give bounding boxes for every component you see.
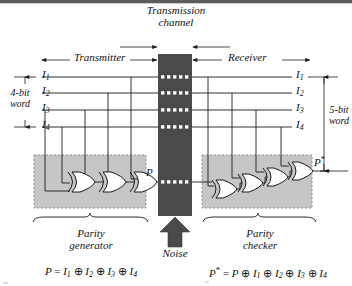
- transmission-channel-label: Transmission channel: [126, 5, 226, 29]
- parity-generator-line1: Parity: [77, 227, 105, 239]
- word-label-right: 5-bit word: [326, 105, 352, 127]
- noise-label: Noise: [148, 248, 202, 260]
- signal-label-right-i1: I1: [296, 69, 304, 82]
- parity-checker-line1: Parity: [246, 227, 274, 239]
- equation-parity-generator: P = I1 ⊕ I2 ⊕ I3 ⊕ I4: [24, 266, 158, 279]
- chk-eq-p: P: [232, 267, 239, 279]
- parity-check-out-prime: *: [321, 154, 325, 164]
- receiver-data-lines: [192, 77, 292, 127]
- chk-eq-xor3: ⊕: [308, 267, 317, 279]
- gen-eq-i4-sub: 4: [133, 270, 137, 279]
- noise-arrow-icon: [160, 217, 190, 247]
- chk-eq-lhs: P: [209, 267, 216, 279]
- parity-checker-line2: checker: [243, 239, 277, 251]
- signal-label-left-i2: I2: [42, 85, 50, 98]
- gen-eq-equals: =: [54, 265, 60, 277]
- chk-eq-i1-sub: 1: [257, 271, 261, 280]
- chk-eq-equals: =: [223, 267, 229, 279]
- word-right-line1: 5-bit: [330, 104, 349, 115]
- brace-parity-checker: [203, 213, 316, 222]
- signal-label-left-i3: I3: [42, 102, 50, 115]
- transmitter-data-lines: [42, 77, 158, 127]
- signal-label-right-i4: I4: [296, 119, 304, 132]
- parity-checker-caption: Parity checker: [210, 228, 310, 252]
- chk-eq-i3-sub: 3: [301, 271, 305, 280]
- gen-eq-xor1: ⊕: [74, 265, 83, 277]
- signal-left-i2-sub: 2: [46, 89, 50, 98]
- chk-eq-i2-sub: 2: [279, 271, 283, 280]
- gen-eq-i3-sub: 3: [111, 270, 115, 279]
- parity-check-out-label: P*: [314, 155, 325, 168]
- chk-eq-i4-sub: 4: [323, 271, 327, 280]
- generator-xor-gates: [68, 172, 158, 192]
- word-left-line1: 4-bit: [11, 87, 30, 98]
- signal-label-right-i3: I3: [296, 102, 304, 115]
- receiver-label: Receiver: [228, 52, 266, 64]
- signal-right-i3-sub: 3: [300, 106, 304, 115]
- brace-parity-generator: [33, 213, 148, 222]
- signal-left-i3-sub: 3: [46, 106, 50, 115]
- gen-eq-i2-sub: 2: [89, 270, 93, 279]
- word-label-left: 4-bit word: [0, 88, 40, 110]
- gen-eq-xor3: ⊕: [118, 265, 127, 277]
- transmission-channel-line1: Transmission: [147, 4, 206, 16]
- signal-label-left-i1: I1: [42, 69, 50, 82]
- chk-eq-xor2: ⊕: [285, 267, 294, 279]
- signal-right-i2-sub: 2: [300, 89, 304, 98]
- gen-eq-lhs: P: [45, 265, 52, 277]
- parity-generator-caption: Parity generator: [40, 228, 142, 252]
- scan-speckle-1: [3, 282, 8, 284]
- signal-left-i1-sub: 1: [46, 73, 50, 82]
- figure-root: Transmission channel Transmitter Receive…: [0, 0, 352, 286]
- gen-eq-xor2: ⊕: [96, 265, 105, 277]
- parity-out-label: P: [146, 167, 153, 179]
- chk-eq-xor0: ⊕: [241, 267, 250, 279]
- signal-right-i4-sub: 4: [300, 123, 304, 132]
- chk-eq-xor1: ⊕: [263, 267, 272, 279]
- parity-generator-line2: generator: [69, 239, 112, 251]
- equation-parity-checker: P* = P ⊕ I1 ⊕ I2 ⊕ I3 ⊕ I4: [192, 266, 344, 281]
- signal-left-i4-sub: 4: [46, 123, 50, 132]
- signal-label-right-i2: I2: [296, 85, 304, 98]
- transmission-channel-line2: channel: [159, 16, 194, 28]
- parity-check-out-name: P: [314, 156, 321, 168]
- gen-eq-i1-sub: 1: [67, 270, 71, 279]
- word-right-line2: word: [329, 115, 349, 126]
- chk-eq-prime: *: [216, 265, 220, 275]
- signal-right-i1-sub: 1: [300, 73, 304, 82]
- signal-label-left-i4: I4: [42, 119, 50, 132]
- transmitter-label: Transmitter: [74, 52, 125, 64]
- scan-speckle-2: [205, 281, 209, 283]
- word-left-line2: word: [10, 98, 30, 109]
